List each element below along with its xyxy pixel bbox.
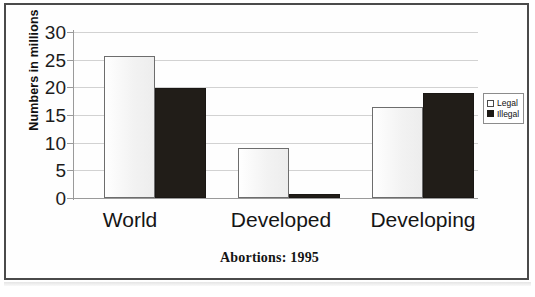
bar-developing-illegal xyxy=(423,93,474,198)
ytick-label-10: 10 xyxy=(45,133,66,152)
chart-area: Numbers in millions 30 25 20 xyxy=(12,11,529,243)
ytick-mark-30 xyxy=(67,32,73,33)
title-bar: Abortions: 1995 xyxy=(12,248,527,266)
ytick-mark-10 xyxy=(67,143,73,144)
ytick-mark-20 xyxy=(67,87,73,88)
chart-title: Abortions: 1995 xyxy=(220,250,319,265)
white-square-icon xyxy=(487,100,494,107)
ytick-mark-25 xyxy=(67,60,73,61)
legend-item-illegal: Illegal xyxy=(487,109,519,120)
bar-developing-legal xyxy=(372,107,423,198)
gridline-0-baseline: 0 xyxy=(74,198,478,199)
ytick-label-0: 0 xyxy=(55,189,66,208)
bar-developed-illegal xyxy=(289,194,340,198)
figure-frame: Numbers in millions 30 25 20 xyxy=(4,3,529,280)
legend-label-illegal: Illegal xyxy=(497,109,519,120)
ytick-label-30: 30 xyxy=(45,23,66,42)
legend-label-legal: Legal xyxy=(497,98,518,109)
ytick-label-20: 20 xyxy=(45,78,66,97)
category-label-world: World xyxy=(94,208,166,232)
gridline-30: 30 xyxy=(74,32,478,33)
ytick-label-5: 5 xyxy=(55,161,66,180)
scan-edge-shadow xyxy=(4,282,531,286)
ytick-label-15: 15 xyxy=(45,106,66,125)
ytick-mark-0 xyxy=(67,198,73,199)
category-label-developing: Developing xyxy=(355,208,491,232)
plot-area: 30 25 20 15 10 xyxy=(74,32,478,198)
category-label-developed: Developed xyxy=(216,208,346,232)
black-square-icon xyxy=(487,110,494,117)
y-axis-label: Numbers in millions xyxy=(27,0,41,150)
ytick-mark-15 xyxy=(67,115,73,116)
ytick-mark-5 xyxy=(67,170,73,171)
bar-world-illegal xyxy=(155,88,206,198)
legend-item-legal: Legal xyxy=(487,98,519,109)
ytick-label-25: 25 xyxy=(45,50,66,69)
figure: Numbers in millions 30 25 20 xyxy=(0,0,535,297)
legend: Legal Illegal xyxy=(483,93,524,124)
bar-world-legal xyxy=(104,56,155,198)
bar-developed-legal xyxy=(238,148,289,198)
